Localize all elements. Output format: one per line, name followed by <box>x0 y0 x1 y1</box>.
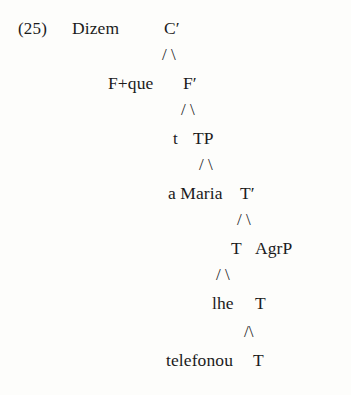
node-agrp: AgrP <box>255 240 292 258</box>
node-a-maria: a Maria <box>168 185 223 203</box>
branch-tp: / \ <box>199 156 213 173</box>
node-lhe: lhe <box>212 295 234 313</box>
node-telefonou: telefonou <box>166 352 233 370</box>
syntax-tree-figure: (25) Dizem C′ / \ F+que F′ / \ t TP / \ … <box>0 0 351 395</box>
node-c-bar: C′ <box>164 20 180 38</box>
branch-t-bar: / \ <box>237 211 251 228</box>
node-t-bar: T′ <box>240 185 255 203</box>
node-t-head-1: T <box>231 240 242 258</box>
branch-t-head-2: /\ <box>244 323 253 340</box>
node-t-head-3: T <box>253 352 264 370</box>
branch-t-head-1: / \ <box>216 266 230 283</box>
branch-c-bar: / \ <box>162 46 176 63</box>
example-number: (25) <box>18 20 47 37</box>
node-f-bar: F′ <box>183 75 197 93</box>
branch-f-bar: / \ <box>181 101 195 118</box>
node-f-que: F+que <box>108 75 153 93</box>
node-tp: TP <box>193 130 214 148</box>
node-trace-t: t <box>173 130 178 147</box>
node-t-head-2: T <box>255 295 266 313</box>
node-dizem: Dizem <box>72 20 119 38</box>
